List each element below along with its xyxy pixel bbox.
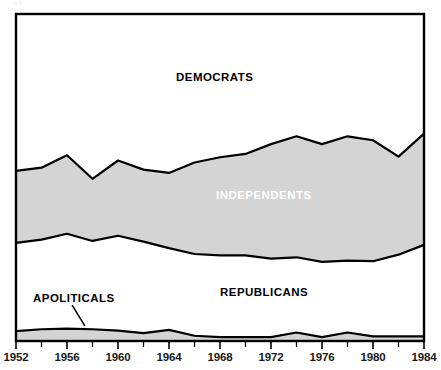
x-tick-label-1976: 1976 — [310, 351, 335, 363]
x-tick-label-1984: 1984 — [412, 351, 437, 363]
x-tick-label-1952: 1952 — [4, 351, 29, 363]
chart-figure: ᵍ ᵖ DEMOCRATS INDEPENDENTS REPUBLICANS A… — [0, 0, 441, 370]
area-chart-plot — [0, 0, 441, 370]
x-tick-label-1980: 1980 — [361, 351, 386, 363]
x-axis-ticks — [16, 341, 424, 349]
x-tick-label-1964: 1964 — [157, 351, 182, 363]
series-label-republicans: REPUBLICANS — [220, 286, 308, 298]
x-tick-label-1960: 1960 — [106, 351, 131, 363]
x-tick-label-1968: 1968 — [208, 351, 233, 363]
x-tick-label-1972: 1972 — [259, 351, 284, 363]
x-tick-label-1956: 1956 — [55, 351, 80, 363]
series-label-apoliticals: APOLITICALS — [33, 292, 115, 304]
series-label-independents: INDEPENDENTS — [216, 189, 312, 201]
series-label-democrats: DEMOCRATS — [176, 71, 253, 83]
